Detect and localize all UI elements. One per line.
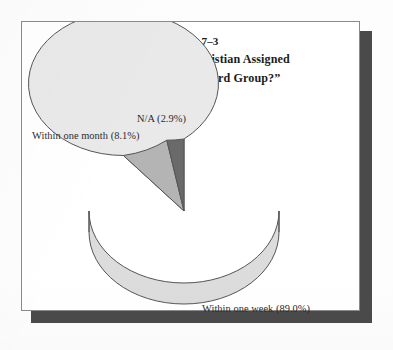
pie-side-wall — [89, 211, 279, 304]
pie-label-na: N/A (2.9%) — [137, 113, 186, 124]
pie-chart: N/A (2.9%) Within one month (8.1%) Withi… — [22, 22, 361, 310]
pie-label-within-one-month: Within one month (8.1%) — [32, 130, 140, 141]
pie-chart-svg — [22, 22, 361, 310]
pie-label-within-one-week: Within one week (89.0%) — [202, 303, 310, 314]
pie-slice-within-one-week — [28, 22, 218, 211]
figure-page: Exhibit 7–3 “When Is the New Christian A… — [21, 21, 360, 311]
figure-root: Exhibit 7–3 “When Is the New Christian A… — [0, 0, 393, 350]
pie-top-face — [28, 22, 218, 211]
